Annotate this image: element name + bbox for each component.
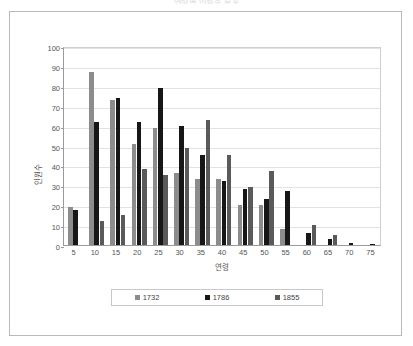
bar-1786-30 — [179, 126, 184, 245]
x-tick-label: 15 — [112, 248, 120, 257]
bar-group — [149, 48, 170, 245]
legend-item[interactable]: 1786 — [205, 293, 230, 302]
x-axis-ticks: 51015202530354045505560657075 — [63, 248, 381, 262]
y-tick-label: 100 — [47, 44, 60, 53]
x-tick-label: 30 — [175, 248, 183, 257]
y-axis-title: 인원수 — [32, 163, 43, 184]
legend-label: 1855 — [283, 293, 300, 302]
y-tick-label: 30 — [52, 183, 60, 192]
plot-wrapper: 0102030405060708090100 — [63, 47, 381, 246]
bar-group — [340, 48, 361, 245]
y-tick-label: 90 — [52, 63, 60, 72]
x-tick-label: 5 — [72, 248, 76, 257]
y-tick-label: 20 — [52, 203, 60, 212]
bar-1786-50 — [264, 199, 269, 245]
bar-1855-50 — [269, 171, 274, 245]
bar-1732-25 — [153, 128, 158, 245]
bar-1732-50 — [259, 205, 264, 245]
bar-1732-45 — [238, 205, 243, 245]
bar-group — [170, 48, 191, 245]
bar-1786-75 — [370, 244, 375, 245]
bar-group — [85, 48, 106, 245]
legend-swatch-icon — [275, 295, 280, 300]
bar-1786-20 — [137, 122, 142, 245]
bar-1732-5 — [68, 207, 73, 245]
bar-1786-10 — [94, 122, 99, 245]
x-tick-label: 50 — [260, 248, 268, 257]
bar-1855-20 — [142, 169, 147, 245]
bar-group — [255, 48, 276, 245]
x-tick-label: 35 — [197, 248, 205, 257]
bar-1855-65 — [333, 235, 338, 245]
bar-1732-55 — [280, 229, 285, 245]
bar-1732-30 — [174, 173, 179, 245]
bar-group — [106, 48, 127, 245]
bar-1855-40 — [227, 155, 232, 245]
chart-title: 연령별 인원수 분포 — [0, 0, 413, 4]
x-tick-label: 70 — [345, 248, 353, 257]
bar-group — [318, 48, 339, 245]
bar-1855-10 — [100, 221, 105, 245]
legend-label: 1732 — [143, 293, 160, 302]
bar-1786-35 — [200, 155, 205, 245]
legend-swatch-icon — [135, 295, 140, 300]
y-tick-label: 0 — [56, 243, 60, 252]
bar-1855-60 — [312, 225, 317, 245]
bar-1732-35 — [195, 179, 200, 245]
bar-1732-10 — [89, 72, 94, 245]
bar-1732-15 — [110, 100, 115, 245]
bar-1786-5 — [73, 210, 78, 245]
bar-group — [234, 48, 255, 245]
bar-1786-65 — [328, 239, 333, 245]
bar-1786-25 — [158, 88, 163, 245]
x-axis-title: 연령 — [63, 261, 381, 272]
bar-group — [212, 48, 233, 245]
x-tick-label: 25 — [154, 248, 162, 257]
bar-group — [361, 48, 382, 245]
y-tick-label: 80 — [52, 83, 60, 92]
y-tick-label: 60 — [52, 123, 60, 132]
y-tick-label: 70 — [52, 103, 60, 112]
x-tick-label: 45 — [239, 248, 247, 257]
bar-1855-45 — [248, 187, 253, 245]
legend-label: 1786 — [213, 293, 230, 302]
legend-item[interactable]: 1732 — [135, 293, 160, 302]
bar-1732-20 — [132, 144, 137, 245]
chart-legend: 173217861855 — [111, 289, 323, 306]
x-tick-label: 10 — [91, 248, 99, 257]
bar-group — [297, 48, 318, 245]
legend-item[interactable]: 1855 — [275, 293, 300, 302]
y-tick-label: 40 — [52, 163, 60, 172]
chart-figure: 연령별 인원수 분포 인원수 0102030405060708090100 51… — [0, 0, 413, 346]
bar-1855-35 — [206, 120, 211, 245]
bar-group — [64, 48, 85, 245]
x-tick-label: 40 — [218, 248, 226, 257]
y-tick-label: 10 — [52, 223, 60, 232]
bar-1786-70 — [349, 243, 354, 245]
bar-group — [276, 48, 297, 245]
y-tick-label: 50 — [52, 143, 60, 152]
bar-1786-45 — [243, 189, 248, 245]
bar-1855-25 — [163, 175, 168, 245]
chart-frame: 인원수 0102030405060708090100 5101520253035… — [9, 11, 402, 336]
x-tick-label: 20 — [133, 248, 141, 257]
bar-group — [128, 48, 149, 245]
bar-group — [191, 48, 212, 245]
x-tick-label: 55 — [281, 248, 289, 257]
plot-area: 0102030405060708090100 — [63, 47, 381, 246]
bar-1786-60 — [306, 233, 311, 245]
bar-1786-55 — [285, 191, 290, 245]
legend-swatch-icon — [205, 295, 210, 300]
bar-1855-30 — [185, 148, 190, 246]
bar-1855-15 — [121, 215, 126, 245]
bar-1786-15 — [116, 98, 121, 245]
x-tick-label: 60 — [303, 248, 311, 257]
bar-1786-40 — [222, 181, 227, 245]
x-tick-label: 65 — [324, 248, 332, 257]
x-tick-label: 75 — [366, 248, 374, 257]
bar-1732-40 — [216, 179, 221, 245]
